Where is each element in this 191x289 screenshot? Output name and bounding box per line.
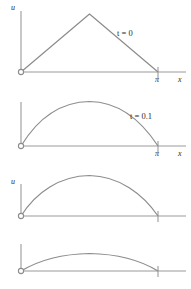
panel-t05: u π x t = 0.5 — [0, 160, 191, 228]
plot-t0 — [0, 0, 191, 88]
plot-t01 — [0, 88, 191, 160]
origin-open-circle-marker — [18, 213, 23, 218]
x-tick-label-pi: π — [155, 76, 159, 84]
curve-t2 — [21, 254, 158, 272]
panel-t0: u π x t = 0 — [0, 0, 191, 88]
series-annotation-t01: t = 0.1 — [130, 112, 152, 121]
origin-open-circle-marker — [18, 143, 23, 148]
origin-open-circle-marker — [18, 268, 23, 273]
curve-t05 — [21, 176, 158, 217]
panel-t01: u π x t = 0.1 — [0, 88, 191, 160]
plot-t2 — [0, 228, 191, 289]
x-axis-label: x — [178, 76, 182, 84]
u-axis-label: u — [11, 4, 15, 12]
figure-container: u π x t = 0 u π x t = 0.1 u π x t = 0.5 — [0, 0, 191, 289]
x-tick-label-pi: π — [155, 150, 159, 158]
plot-t05 — [0, 160, 191, 228]
curve-t01 — [21, 102, 158, 147]
panel-t2: u π x t = 2 — [0, 228, 191, 289]
origin-open-circle-marker — [18, 69, 23, 74]
curve-t0 — [21, 14, 158, 72]
x-axis-label: x — [178, 150, 182, 158]
series-annotation-t0: t = 0 — [117, 29, 133, 38]
